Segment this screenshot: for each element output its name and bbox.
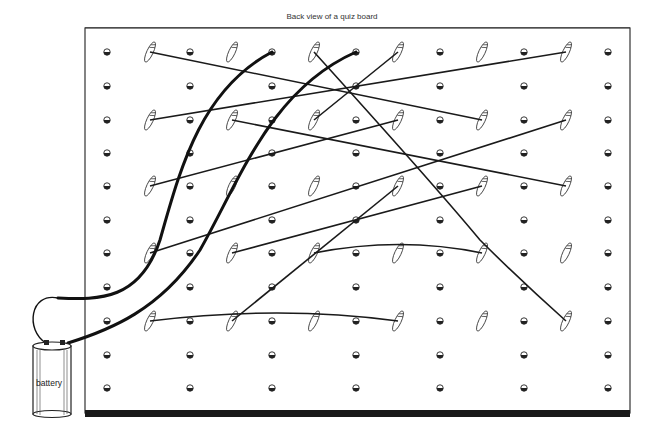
screw-icon xyxy=(521,150,527,156)
screw-icon xyxy=(104,250,110,256)
screw-icon xyxy=(269,385,275,391)
screw-icon xyxy=(521,49,527,55)
battery-jumper xyxy=(33,297,58,343)
screw-icon xyxy=(269,183,275,189)
screw-icon xyxy=(353,352,359,358)
screw-icon xyxy=(521,385,527,391)
screw-icon xyxy=(437,250,443,256)
screw-icon xyxy=(187,352,193,358)
screw-icon xyxy=(437,83,443,89)
screw-icon xyxy=(187,117,193,123)
screw-icon xyxy=(437,183,443,189)
screw-icon xyxy=(353,318,359,324)
screw-icon xyxy=(605,150,611,156)
screw-icon xyxy=(104,385,110,391)
screw-icon xyxy=(353,385,359,391)
screw-icon xyxy=(521,250,527,256)
screw-icon xyxy=(187,49,193,55)
screw-icon xyxy=(104,150,110,156)
screw-icon xyxy=(521,318,527,324)
screw-icon xyxy=(521,117,527,123)
screw-icon xyxy=(437,352,443,358)
screw-icon xyxy=(104,217,110,223)
screw-icon xyxy=(437,117,443,123)
quiz-board-diagram xyxy=(0,0,664,445)
screw-icon xyxy=(187,183,193,189)
screw-icon xyxy=(187,83,193,89)
screw-icon xyxy=(437,284,443,290)
screw-icon xyxy=(437,385,443,391)
screw-icon xyxy=(187,217,193,223)
screw-icon xyxy=(605,183,611,189)
screw-icon xyxy=(104,117,110,123)
screw-icon xyxy=(605,250,611,256)
screw-icon xyxy=(187,318,193,324)
board-base xyxy=(85,410,630,417)
screw-icon xyxy=(437,49,443,55)
screw-icon xyxy=(187,385,193,391)
screw-icon xyxy=(605,352,611,358)
screw-icon xyxy=(521,352,527,358)
screw-icon xyxy=(353,150,359,156)
screw-icon xyxy=(521,83,527,89)
screw-icon xyxy=(353,250,359,256)
screw-icon xyxy=(437,318,443,324)
screw-icon xyxy=(104,352,110,358)
screw-icon xyxy=(353,117,359,123)
screw-icon xyxy=(104,318,110,324)
screw-icon xyxy=(269,318,275,324)
screw-icon xyxy=(104,284,110,290)
screw-icon xyxy=(605,385,611,391)
screw-icon xyxy=(353,284,359,290)
screw-icon xyxy=(605,318,611,324)
battery-label: battery xyxy=(36,378,62,388)
screw-icon xyxy=(605,83,611,89)
screw-icon xyxy=(605,284,611,290)
screw-icon xyxy=(605,217,611,223)
screw-icon xyxy=(187,284,193,290)
screw-icon xyxy=(269,83,275,89)
screw-icon xyxy=(269,250,275,256)
screw-icon xyxy=(521,183,527,189)
screw-icon xyxy=(269,217,275,223)
screw-icon xyxy=(605,49,611,55)
screw-icon xyxy=(187,250,193,256)
screw-icon xyxy=(104,49,110,55)
screw-icon xyxy=(437,150,443,156)
screw-icon xyxy=(437,217,443,223)
screw-icon xyxy=(104,83,110,89)
screw-icon xyxy=(104,183,110,189)
screw-icon xyxy=(269,352,275,358)
screw-icon xyxy=(605,117,611,123)
screw-icon xyxy=(521,217,527,223)
